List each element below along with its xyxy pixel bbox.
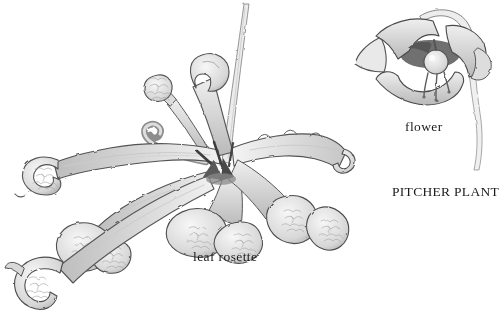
figure-title: PITCHER PLANT — [392, 184, 499, 200]
botanical-illustration — [0, 0, 499, 315]
leaf-rosette-illustration — [5, 4, 355, 309]
pitcher-plant-figure: flower PITCHER PLANT leaf rosette — [0, 0, 499, 315]
flower-label: flower — [405, 119, 443, 135]
flower-illustration — [355, 10, 491, 170]
flower-ovary — [424, 50, 448, 74]
hooked-tip — [15, 257, 63, 309]
leaf-rosette-label: leaf rosette — [193, 249, 257, 265]
